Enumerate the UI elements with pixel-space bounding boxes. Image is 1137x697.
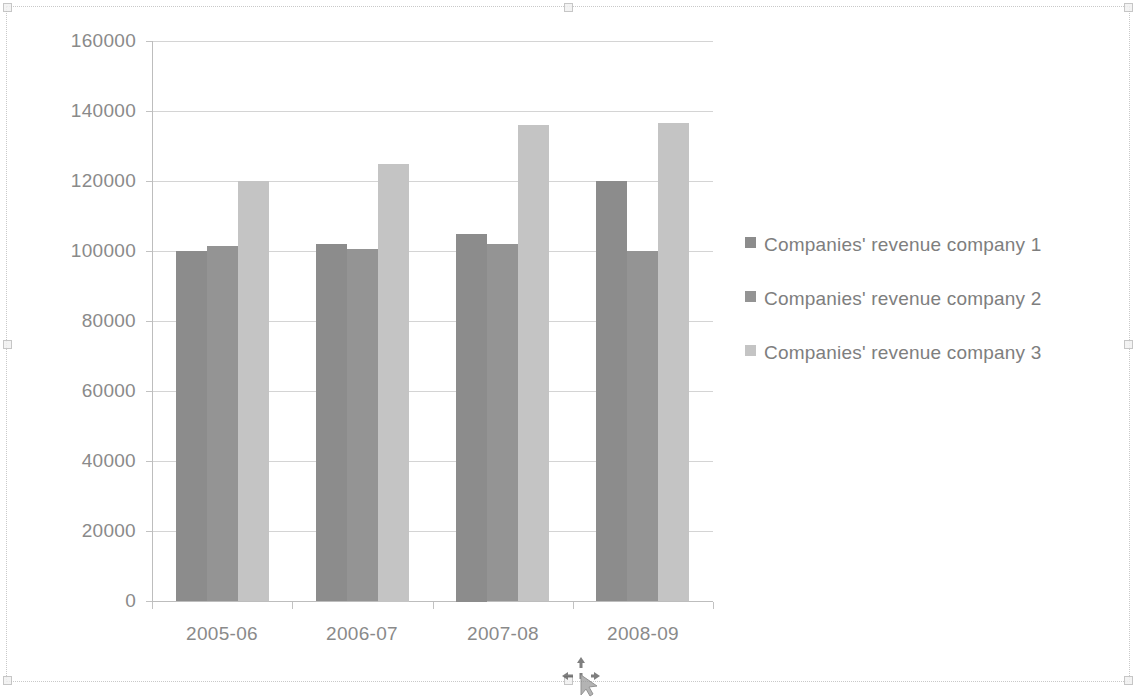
- gridline: [152, 181, 713, 182]
- bar-series-3-2008-09[interactable]: [658, 123, 689, 601]
- legend-swatch-icon: [745, 345, 756, 356]
- y-axis-tick-label: 100000: [16, 240, 136, 262]
- gridline: [152, 41, 713, 42]
- bar-series-2-2008-09[interactable]: [627, 251, 658, 601]
- x-axis-tickmark: [433, 602, 434, 609]
- y-axis-tick-label: 140000: [16, 100, 136, 122]
- x-axis-tickmark: [713, 602, 714, 609]
- gridline: [152, 111, 713, 112]
- legend-label: Companies' revenue company 1: [764, 232, 1042, 259]
- y-axis-tick-label: 160000: [16, 30, 136, 52]
- bar-series-3-2007-08[interactable]: [518, 125, 549, 601]
- bar-series-1-2007-08[interactable]: [456, 234, 487, 602]
- bar-series-2-2007-08[interactable]: [487, 244, 518, 601]
- chart-legend[interactable]: Companies' revenue company 1Companies' r…: [745, 232, 1115, 394]
- x-axis-tick-label: 2007-08: [433, 623, 573, 645]
- y-axis-tick-label: 20000: [16, 520, 136, 542]
- legend-label: Companies' revenue company 2: [764, 286, 1042, 313]
- bar-series-2-2005-06[interactable]: [207, 246, 238, 601]
- y-axis-tick-label: 60000: [16, 380, 136, 402]
- x-axis-tick-label: 2008-09: [573, 623, 713, 645]
- bar-series-2-2006-07[interactable]: [347, 249, 378, 601]
- legend-item-2[interactable]: Companies' revenue company 2: [745, 286, 1115, 313]
- legend-swatch-icon: [745, 291, 756, 302]
- legend-swatch-icon: [745, 237, 756, 248]
- bar-series-1-2008-09[interactable]: [596, 181, 627, 601]
- x-axis-tickmark: [152, 602, 153, 609]
- y-axis-tick-label: 120000: [16, 170, 136, 192]
- legend-label: Companies' revenue company 3: [764, 340, 1042, 367]
- x-axis-tickmark: [573, 602, 574, 609]
- bar-series-3-2006-07[interactable]: [378, 164, 409, 602]
- x-axis-tick-label: 2005-06: [152, 623, 292, 645]
- y-axis-line: [152, 41, 153, 602]
- bar-series-3-2005-06[interactable]: [238, 181, 269, 601]
- bar-chart[interactable]: 0200004000060000800001000001200001400001…: [0, 0, 1137, 697]
- bar-series-1-2006-07[interactable]: [316, 244, 347, 601]
- y-axis-tick-label: 40000: [16, 450, 136, 472]
- x-axis-tickmark: [292, 602, 293, 609]
- y-axis-tick-label: 0: [16, 590, 136, 612]
- legend-item-1[interactable]: Companies' revenue company 1: [745, 232, 1115, 259]
- bar-series-1-2005-06[interactable]: [176, 251, 207, 601]
- move-cursor-icon: [560, 655, 604, 697]
- y-axis-tick-label: 80000: [16, 310, 136, 332]
- legend-item-3[interactable]: Companies' revenue company 3: [745, 340, 1115, 367]
- x-axis-tick-label: 2006-07: [292, 623, 432, 645]
